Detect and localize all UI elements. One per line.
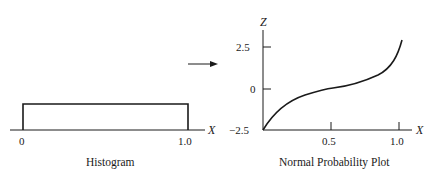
histogram-tick-0: 0: [19, 136, 25, 147]
arrow-right-icon: [188, 61, 218, 67]
plot-y-tick-2.5: 2.5: [236, 42, 250, 53]
histogram-tick-1: 1.0: [178, 136, 192, 147]
plot-y-label: Z: [260, 16, 267, 28]
probability-plot: [263, 30, 412, 130]
plot-y-tick-0: 0: [250, 84, 256, 95]
plot-x-tick-0.5: 0.5: [322, 136, 336, 147]
plot-x-tick-1.0: 1.0: [390, 136, 404, 147]
histogram-x-label: X: [208, 124, 215, 136]
plot-x-label: X: [416, 124, 423, 136]
plot-caption: Normal Probability Plot: [279, 157, 390, 169]
histogram-caption: Histogram: [86, 157, 135, 169]
probability-curve: [263, 40, 402, 130]
histogram: [10, 104, 205, 130]
histogram-bar: [23, 104, 188, 130]
plot-y-tick-neg2.5: −2.5: [229, 125, 249, 136]
figure-canvas: [0, 0, 434, 174]
